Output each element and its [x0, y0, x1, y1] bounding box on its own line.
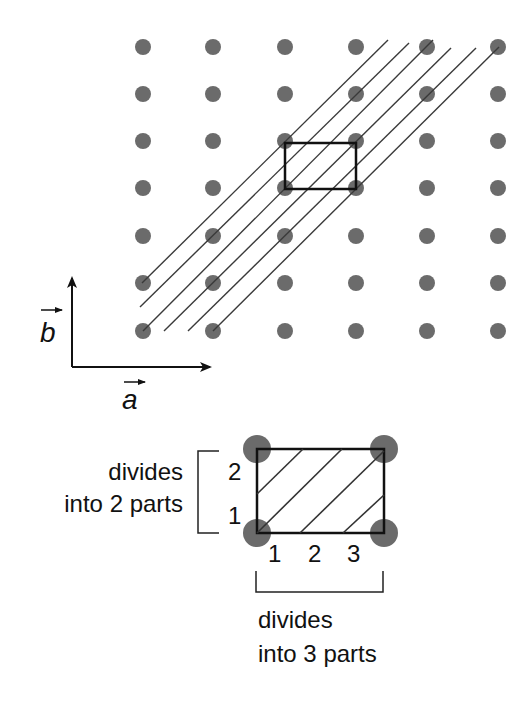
detail-hatch-lines [257, 449, 384, 533]
lattice-point [205, 180, 221, 196]
detail-corner-points [243, 435, 398, 547]
plane-line [142, 40, 388, 283]
lattice-point [205, 133, 221, 149]
axis-vectors: b a [40, 278, 210, 415]
lattice-point [490, 323, 506, 339]
lattice-point [135, 228, 151, 244]
lattice-point [419, 86, 435, 102]
lattice-point [419, 133, 435, 149]
hatch-line [257, 449, 342, 533]
horizontal-tick-2: 2 [308, 540, 321, 567]
lattice-point [348, 323, 364, 339]
lattice-point [490, 86, 506, 102]
lattice-point [419, 275, 435, 291]
vertical-tick-2: 2 [228, 458, 241, 485]
lattice-point [277, 39, 293, 55]
lattice-point [135, 133, 151, 149]
lattice-plane-lines [140, 40, 499, 331]
lattice-point [348, 228, 364, 244]
lattice-planes-diagram: b a 2 1 divides into 2 parts 1 2 3 divid… [0, 0, 528, 708]
lattice-point [277, 86, 293, 102]
lattice-point [205, 86, 221, 102]
plane-line [140, 43, 409, 307]
lattice-point [419, 228, 435, 244]
unit-cell-detail: 2 1 divides into 2 parts 1 2 3 divides i… [64, 435, 398, 667]
hatch-line [300, 451, 384, 533]
lattice-point [419, 180, 435, 196]
horizontal-tick-3: 3 [347, 540, 360, 567]
detail-cell-rect [257, 449, 384, 533]
bottom-label-line1: divides [258, 606, 333, 633]
lattice-point [348, 39, 364, 55]
lattice-point [135, 180, 151, 196]
lattice-point [419, 323, 435, 339]
left-label-line2: into 2 parts [64, 490, 183, 517]
left-bracket [198, 451, 219, 533]
lattice-point [205, 39, 221, 55]
a-axis-label: a [122, 384, 138, 415]
left-label-line1: divides [108, 458, 183, 485]
lattice-point [277, 323, 293, 339]
vertical-tick-1: 1 [228, 502, 241, 529]
bottom-bracket [256, 571, 383, 592]
lattice-point [490, 133, 506, 149]
lattice-point [277, 275, 293, 291]
horizontal-tick-1: 1 [268, 540, 281, 567]
b-axis-label: b [40, 317, 56, 348]
lattice-point [348, 275, 364, 291]
unit-cell-highlight [285, 143, 356, 189]
lattice-point [490, 180, 506, 196]
lattice-point [490, 275, 506, 291]
lattice-point [135, 39, 151, 55]
lattice-point [135, 86, 151, 102]
lattice-point [490, 228, 506, 244]
bottom-label-line2: into 3 parts [258, 640, 377, 667]
